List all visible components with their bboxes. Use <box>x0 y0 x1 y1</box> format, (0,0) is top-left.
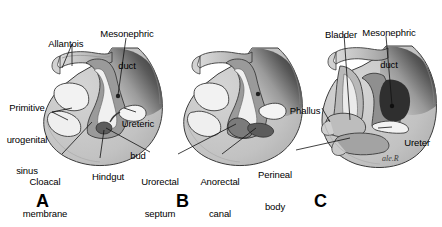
label-hindgut: Hindgut <box>80 161 126 193</box>
label-primitive-urogenital-sinus-line-2: urogenital <box>0 135 54 146</box>
label-mesonephric-duct-c-line-1: Mesonephric <box>352 28 426 39</box>
label-cloacal-membrane-line-1: Cloacal <box>14 177 76 188</box>
panel-b-mesonephric-duct-dot <box>256 92 260 96</box>
label-ureter-line-1: Ureter <box>404 137 430 148</box>
panel-letter-a: A <box>36 192 49 210</box>
panel-letter-c: C <box>314 192 327 210</box>
label-mesonephric-duct-c: Mesonephric duct <box>352 7 426 91</box>
label-perineal-body-line-2: body <box>250 202 300 213</box>
artist-signature: ale.R <box>382 154 399 163</box>
label-perineal-body-line-1: Perineal <box>250 170 300 181</box>
label-mesonephric-duct-c-line-2: duct <box>352 60 426 71</box>
label-anorectal-canal-line-2: canal <box>192 209 248 220</box>
label-anorectal-canal-line-1: Anorectal <box>192 177 248 188</box>
label-hindgut-line-1: Hindgut <box>92 171 124 182</box>
label-allantois-line-1: Allantois <box>48 38 83 49</box>
panel-c-bladder-cap <box>328 52 336 70</box>
label-ureteric-bud-line-1: Ureteric <box>114 119 162 130</box>
label-perineal-body: Perineal body <box>250 149 300 227</box>
label-mesonephric-duct-a-line-1: Mesonephric <box>90 29 164 40</box>
label-phallus: Phallus <box>278 95 322 127</box>
label-mesonephric-duct-a: Mesonephric duct <box>90 8 164 92</box>
label-primitive-urogenital-sinus-line-1: Primitive <box>0 103 54 114</box>
label-urorectal-septum-line-1: Urorectal <box>132 177 188 188</box>
panel-b-allantois-cap <box>192 56 200 74</box>
embryology-figure: Allantois Mesonephric duct Primitive uro… <box>0 0 442 227</box>
label-mesonephric-duct-a-line-2: duct <box>90 61 164 72</box>
label-phallus-line-1: Phallus <box>290 105 320 116</box>
panel-letter-b: B <box>176 192 189 210</box>
label-allantois: Allantois <box>32 28 90 60</box>
label-anorectal-canal: Anorectal canal <box>192 156 248 227</box>
